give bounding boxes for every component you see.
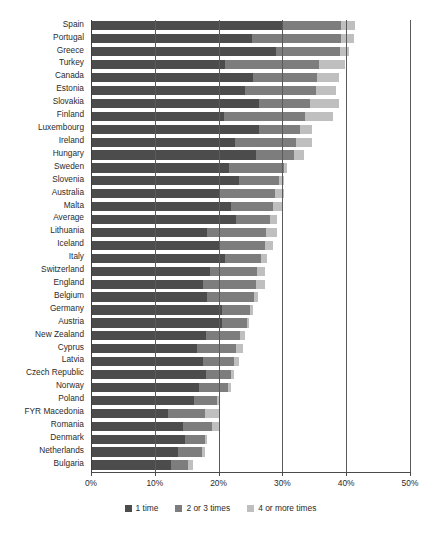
gridline-30 (282, 20, 283, 472)
stacked-bar (91, 344, 243, 353)
bar-segment-1 (91, 435, 185, 444)
bar-segment-3 (296, 138, 311, 147)
bar-row (91, 265, 410, 278)
bar-segment-2 (199, 383, 227, 392)
bar-row (91, 278, 410, 291)
stacked-bar (91, 280, 265, 289)
bar-segment-1 (91, 383, 199, 392)
bar-segment-3 (265, 241, 274, 250)
x-tick-label: 40% (338, 478, 355, 488)
bar-segment-3 (250, 305, 253, 314)
bar-segment-2 (239, 176, 279, 185)
bar-segment-1 (91, 202, 231, 211)
bar-row (91, 162, 410, 175)
bar-row (91, 123, 410, 136)
stacked-bar (91, 447, 205, 456)
category-axis-labels: SpainPortugalGreeceTurkeyCanadaEstoniaSl… (0, 20, 88, 472)
bar-row (91, 240, 410, 253)
legend-swatch-icon (125, 505, 132, 512)
category-label: Germany (50, 304, 84, 314)
bar-segment-2 (256, 150, 294, 159)
legend-label: 2 or 3 times (186, 503, 230, 513)
bar-segment-3 (340, 47, 349, 56)
stacked-bar (91, 163, 287, 172)
stacked-bar (91, 267, 265, 276)
legend-item-3[interactable]: 4 or more times (247, 503, 316, 513)
bar-row (91, 20, 410, 33)
bar-segment-3 (205, 435, 208, 444)
x-tick-label: 0% (85, 478, 97, 488)
bar-segment-1 (91, 215, 236, 224)
bar-segment-3 (341, 34, 354, 43)
bar-segment-1 (91, 73, 253, 82)
legend-item-1[interactable]: 1 time (125, 503, 159, 513)
category-label: Slovenia (52, 175, 84, 185)
category-label: Czech Republic (26, 368, 84, 378)
gridline-0 (91, 20, 92, 472)
bar-segment-1 (91, 318, 222, 327)
bar-segment-2 (207, 292, 254, 301)
bar-segment-1 (91, 409, 168, 418)
category-label: Netherlands (39, 446, 84, 456)
bar-segment-2 (235, 138, 296, 147)
category-label: Romania (51, 420, 84, 430)
bar-segment-1 (91, 370, 206, 379)
stacked-bar (91, 21, 355, 30)
legend-label: 4 or more times (258, 503, 316, 513)
bar-row (91, 459, 410, 472)
bar-segment-2 (171, 460, 188, 469)
bar-segment-2 (222, 318, 246, 327)
bar-segment-2 (207, 228, 266, 237)
bar-row (91, 356, 410, 369)
bar-segment-3 (261, 254, 267, 263)
stacked-bar (91, 241, 273, 250)
bar-segment-3 (234, 357, 239, 366)
stacked-bar (91, 125, 312, 134)
category-label: Spain (63, 20, 84, 30)
bar-row (91, 46, 410, 59)
category-label: Belgium (54, 291, 84, 301)
category-label: Latvia (62, 355, 84, 365)
bar-row (91, 59, 410, 72)
bar-row (91, 433, 410, 446)
category-label: New Zealand (35, 330, 84, 340)
bar-segment-1 (91, 163, 229, 172)
bar-segment-1 (91, 460, 171, 469)
legend-swatch-icon (247, 505, 254, 512)
x-tick-label: 20% (210, 478, 227, 488)
bar-segment-1 (91, 331, 206, 340)
bar-row (91, 304, 410, 317)
bar-row (91, 136, 410, 149)
bar-segment-3 (316, 86, 336, 95)
category-label: Iceland (57, 239, 84, 249)
category-label: Switzerland (41, 265, 84, 275)
bar-segment-2 (225, 254, 261, 263)
bar-segment-3 (247, 318, 250, 327)
bar-row (91, 291, 410, 304)
stacked-bar (91, 202, 283, 211)
bar-row (91, 72, 410, 85)
bar-segment-1 (91, 292, 207, 301)
bar-segment-2 (224, 112, 304, 121)
bar-segment-2 (253, 73, 317, 82)
bar-segment-1 (91, 47, 276, 56)
bar-segment-3 (266, 228, 277, 237)
bar-row (91, 110, 410, 123)
bar-segment-3 (257, 267, 265, 276)
category-label: England (54, 278, 84, 288)
stacked-bar (91, 215, 277, 224)
legend-item-2[interactable]: 2 or 3 times (175, 503, 230, 513)
stacked-bar (91, 73, 339, 82)
bar-row (91, 33, 410, 46)
category-label: Australia (52, 188, 84, 198)
stacked-bar-chart: SpainPortugalGreeceTurkeyCanadaEstoniaSl… (0, 0, 441, 534)
bar-segment-3 (305, 112, 333, 121)
bar-row (91, 149, 410, 162)
bar-segment-3 (236, 344, 242, 353)
bar-segment-2 (210, 267, 257, 276)
stacked-bar (91, 370, 234, 379)
category-label: Denmark (50, 433, 84, 443)
category-label: Portugal (53, 33, 84, 43)
bar-segment-3 (270, 215, 278, 224)
bar-row (91, 317, 410, 330)
